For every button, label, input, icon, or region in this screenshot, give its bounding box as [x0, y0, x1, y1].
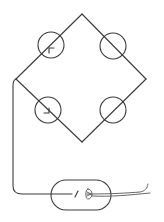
lead-wire-left	[13, 79, 72, 194]
bridge-edges	[16, 14, 146, 142]
filament-coil	[87, 192, 91, 196]
capsule-body	[51, 180, 111, 210]
circle-icon	[100, 97, 126, 123]
edge-top-left	[16, 14, 82, 79]
capsule-component	[51, 180, 111, 210]
edge-top-right	[82, 14, 146, 79]
bridge-circuit-diagram	[0, 0, 164, 222]
element-bottom-right	[100, 97, 126, 123]
lead-wire-right-upper	[92, 184, 148, 194]
edge-bottom-right	[82, 79, 146, 142]
arrow-up-right-icon	[49, 48, 54, 53]
switch-slash-icon	[75, 191, 78, 197]
